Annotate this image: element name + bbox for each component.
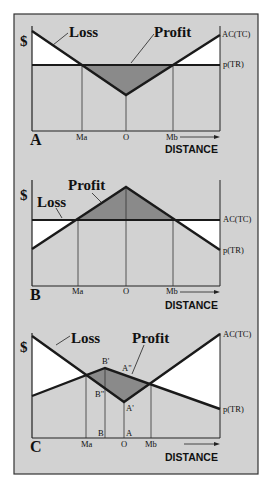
point-a: A [126, 428, 133, 438]
tick-o: O [121, 439, 127, 449]
ac-label: AC(TC) [223, 329, 252, 339]
ptr-label: p(TR) [223, 404, 244, 414]
tick-ma: Ma [76, 132, 88, 142]
tick-mb: Mb [145, 439, 157, 449]
profit-label: Profit [132, 330, 169, 346]
y-axis-label: $ [20, 33, 28, 49]
ptr-label: p(TR) [223, 245, 244, 255]
x-axis-label: DISTANCE [165, 299, 218, 311]
tick-mb: Mb [166, 286, 178, 296]
loss-label: Loss [69, 24, 98, 40]
y-axis-label: $ [20, 187, 28, 203]
loss-label: Loss [37, 194, 66, 210]
loss-label: Loss [71, 330, 100, 346]
tick-mb: Mb [166, 132, 178, 142]
ac-label: AC(TC) [222, 29, 251, 39]
point-b-prime: B' [102, 356, 110, 366]
profit-label: Profit [154, 24, 191, 40]
tick-o: O [123, 286, 129, 296]
panel-letter: A [30, 131, 42, 148]
point-a-prime: A' [126, 403, 134, 413]
y-axis-label: $ [20, 339, 28, 355]
x-axis-label: DISTANCE [165, 143, 218, 155]
x-axis-label: DISTANCE [165, 451, 218, 463]
tick-ma: Ma [81, 439, 93, 449]
tick-ma: Ma [72, 286, 84, 296]
profit-label: Profit [68, 177, 105, 193]
ptr-label: p(TR) [223, 59, 244, 69]
point-a-double-prime: A" [122, 363, 132, 373]
panel-letter: C [30, 438, 42, 455]
panel-letter: B [30, 286, 41, 303]
tick-o: O [123, 132, 129, 142]
spatial-profit-diagram: $ Loss Profit AC(TC) p(TR) Ma O Mb A DIS… [0, 0, 274, 483]
point-b-double-prime: B" [95, 389, 104, 399]
ac-label: AC(TC) [223, 214, 252, 224]
point-b: B [98, 428, 104, 438]
